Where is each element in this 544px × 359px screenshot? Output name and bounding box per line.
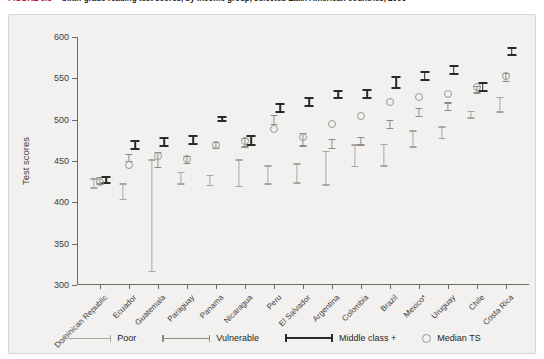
median-marker [154,152,162,160]
median-marker [241,137,249,145]
y-tick [72,120,77,121]
x-tick [390,285,391,289]
legend-item: Middle class + [285,333,396,343]
errorbar-cap [380,165,387,166]
x-tick-label: Chile [467,293,486,312]
errorbar-cap [207,175,214,176]
errorbar-line [354,144,355,165]
errorbar-cap [247,135,256,137]
errorbar-cap [449,73,458,75]
errorbar-cap [420,71,429,73]
errorbar-cap [444,110,451,111]
errorbar-cap [449,65,458,67]
errorbar-cap [91,187,98,188]
errorbar-cap [276,111,285,113]
errorbar-cap [467,111,474,112]
errorbar-line [267,165,268,183]
errorbar-cap [149,271,156,272]
errorbar-cap [438,126,445,127]
legend-item: Vulnerable [162,333,259,343]
errorbar-cap [322,151,329,152]
x-tick [361,285,362,289]
errorbar-cap [328,139,335,140]
errorbar-cap [265,165,272,166]
errorbar-cap [478,82,487,84]
errorbar-cap [333,90,342,92]
y-tick-label: 300 [54,280,69,290]
errorbar-cap [218,116,227,118]
errorbar-cap [333,97,342,99]
errorbar-line [123,183,124,199]
median-marker [299,133,307,141]
x-tick [303,285,304,289]
errorbar-line [325,151,326,184]
errorbar-cap [236,159,243,160]
y-tick [72,244,77,245]
x-tick [216,285,217,289]
median-marker [502,72,510,80]
y-axis-label: Test scores [20,137,31,185]
errorbar-cap [438,138,445,139]
median-circle-icon [422,334,431,343]
y-tick-label: 550 [54,73,69,83]
errorbar-cap [386,128,393,129]
chart-panel: Test scores 300350400450500550600 Domini… [8,14,536,354]
errorbar-cap [120,183,127,184]
errorbar-line [209,175,210,185]
errorbar-cap [322,184,329,185]
errorbar-cap [496,111,503,112]
errorbar-cap [305,105,314,107]
errorbar-cap [102,176,111,178]
legend-item: Median TS [422,333,480,343]
errorbar-cap [276,103,285,105]
errorbar-icon [285,334,333,343]
figure-number: FIGURE 3.5 [8,0,52,3]
errorbar-cap [149,159,156,160]
errorbar-cap [300,145,307,146]
errorbar-line [238,159,239,185]
median-marker [357,112,365,120]
errorbar-cap [391,76,400,78]
errorbar-cap [420,79,429,81]
errorbar-cap [391,87,400,89]
errorbar-cap [131,148,140,150]
errorbar-cap [328,148,335,149]
errorbar-cap [131,140,140,142]
x-tick-label: Mexico* [402,293,428,319]
x-tick [448,285,449,289]
x-tick-label: Brazil [379,293,400,314]
x-tick [332,285,333,289]
x-tick-label: Colombia [340,293,370,323]
legend-label: Middle class + [339,333,396,343]
errorbar-line [441,126,442,138]
errorbar-cap [380,144,387,145]
y-tick [72,37,77,38]
x-tick-label: Argentina [311,293,342,324]
errorbar-cap [189,143,198,145]
errorbar-line [499,97,500,112]
x-tick-label: Uruguay [429,293,457,321]
errorbar-cap [357,144,364,145]
errorbar-cap [189,135,198,137]
errorbar-cap [178,183,185,184]
errorbar-cap [409,130,416,131]
median-marker [270,125,278,133]
y-tick-label: 500 [54,115,69,125]
errorbar-cap [357,137,364,138]
errorbar-cap [242,146,249,147]
errorbar-cap [473,92,480,93]
x-tick [245,285,246,289]
y-tick [72,161,77,162]
errorbar-cap [218,120,227,122]
errorbar-cap [271,115,278,116]
y-tick [72,202,77,203]
plot-area: Test scores 300350400450500550600 Domini… [77,37,529,285]
x-tick-label: Ecuador [111,293,138,320]
errorbar-line [181,172,182,184]
errorbar-cap [507,54,516,56]
errorbar-cap [415,116,422,117]
y-tick [72,78,77,79]
errorbar-cap [294,163,301,164]
median-marker [125,161,133,169]
x-tick-label: Guatemala [133,293,167,327]
